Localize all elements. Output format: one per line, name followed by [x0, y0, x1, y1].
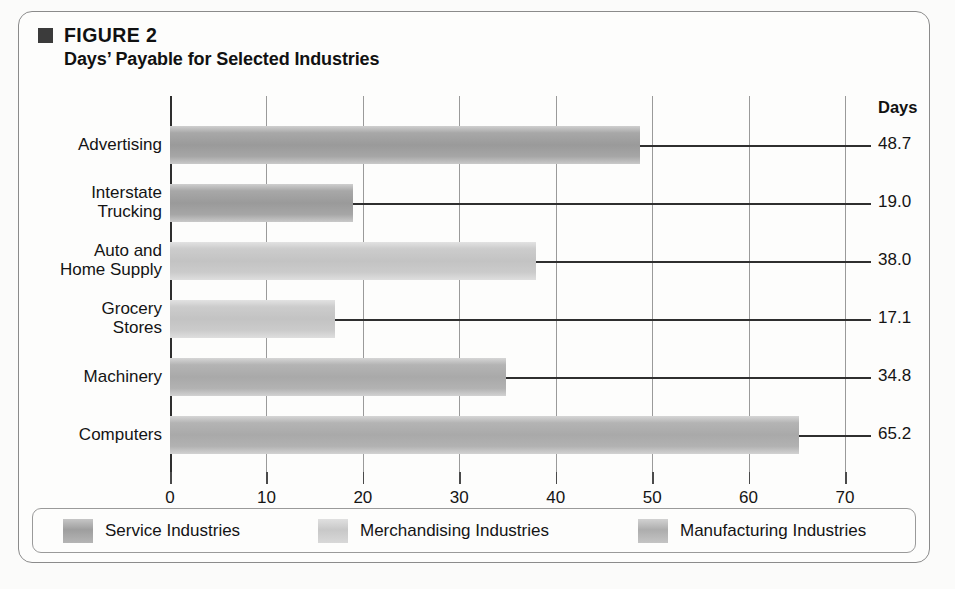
x-tick-mark: [845, 472, 847, 484]
leader-line: [506, 377, 871, 379]
value-label: 38.0: [878, 250, 911, 270]
page-title: Days’ Payable for Selected Industries: [64, 49, 738, 70]
bar: [170, 242, 536, 280]
x-tick-mark: [749, 472, 751, 484]
bar: [170, 300, 335, 338]
bar: [170, 184, 353, 222]
category-label: Grocery Stores: [102, 299, 162, 337]
value-label: 48.7: [878, 134, 911, 154]
gridline: [845, 96, 846, 472]
x-tick-mark: [363, 472, 365, 484]
category-label: Computers: [79, 425, 162, 444]
figure-eyebrow: FIGURE 2: [38, 26, 738, 46]
value-label: 34.8: [878, 366, 911, 386]
leader-line: [335, 319, 871, 321]
legend-swatch: [318, 519, 348, 543]
category-label: Advertising: [78, 135, 162, 154]
legend-item[interactable]: Manufacturing Industries: [638, 519, 866, 543]
plot-area: 010203040506070: [170, 110, 845, 472]
chart-legend: Service IndustriesMerchandising Industri…: [32, 508, 916, 553]
x-tick-mark: [652, 472, 654, 484]
bar: [170, 358, 506, 396]
value-axis-header: Days: [878, 98, 917, 117]
category-label: Auto and Home Supply: [60, 241, 162, 279]
x-tick-label: 70: [836, 488, 855, 508]
leader-line: [536, 261, 871, 263]
legend-item[interactable]: Merchandising Industries: [318, 519, 549, 543]
category-label: Interstate Trucking: [91, 183, 162, 221]
value-label: 19.0: [878, 192, 911, 212]
x-tick-label: 10: [257, 488, 276, 508]
value-label: 65.2: [878, 424, 911, 444]
x-tick-label: 30: [450, 488, 469, 508]
legend-label: Service Industries: [105, 521, 240, 541]
leader-line: [640, 145, 871, 147]
x-tick-label: 40: [546, 488, 565, 508]
legend-swatch: [63, 519, 93, 543]
figure-number: FIGURE 2: [64, 26, 157, 46]
x-tick-label: 0: [165, 488, 174, 508]
x-tick-mark: [170, 472, 172, 484]
x-tick-mark: [556, 472, 558, 484]
x-tick-label: 60: [739, 488, 758, 508]
value-label: 17.1: [878, 308, 911, 328]
legend-swatch: [638, 519, 668, 543]
legend-label: Merchandising Industries: [360, 521, 549, 541]
bar: [170, 126, 640, 164]
x-tick-mark: [459, 472, 461, 484]
figure-header: FIGURE 2 Days’ Payable for Selected Indu…: [38, 26, 738, 69]
bar: [170, 416, 799, 454]
figure-root: FIGURE 2 Days’ Payable for Selected Indu…: [0, 0, 955, 589]
filled-square-icon: [38, 28, 53, 43]
x-tick-label: 20: [353, 488, 372, 508]
legend-item[interactable]: Service Industries: [63, 519, 240, 543]
leader-line: [353, 203, 871, 205]
legend-label: Manufacturing Industries: [680, 521, 866, 541]
leader-line: [799, 435, 871, 437]
x-tick-mark: [266, 472, 268, 484]
x-tick-label: 50: [643, 488, 662, 508]
category-label: Machinery: [84, 367, 162, 386]
